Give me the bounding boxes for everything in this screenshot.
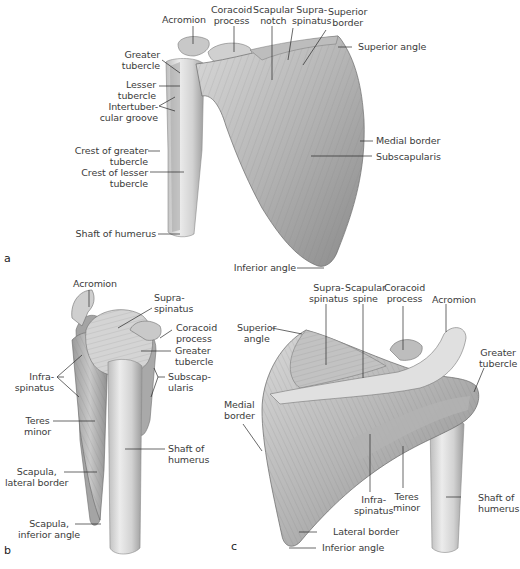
label-c-superior-angle: Superior angle xyxy=(237,322,276,344)
label-c-coracoid-process: Coracoid process xyxy=(384,282,425,304)
label-a-supraspinatus: Supra- spinatus xyxy=(292,4,331,26)
label-a-greater-tubercle: Greater tubercle xyxy=(106,49,160,71)
label-a-medial-border: Medial border xyxy=(376,135,440,146)
label-a-coracoid-process: Coracoid process xyxy=(211,4,252,26)
panel-a-illustration xyxy=(166,36,364,266)
label-c-shaft-of-humerus: Shaft of humerus xyxy=(478,492,519,514)
panel-letter-b: b xyxy=(4,544,11,557)
label-b-scapula-inferior-angle: Scapula, inferior angle xyxy=(18,518,80,540)
label-c-greater-tubercle: Greater tubercle xyxy=(479,347,517,369)
label-a-subscapularis: Subscapularis xyxy=(376,151,441,162)
label-c-acromion: Acromion xyxy=(432,294,476,305)
label-b-greater-tubercle: Greater tubercle xyxy=(175,345,213,367)
label-c-inferior-angle: Inferior angle xyxy=(322,542,384,553)
label-b-scapula-lateral-border: Scapula, lateral border xyxy=(5,466,68,488)
label-a-lesser-tubercle: Lesser tubercle xyxy=(104,79,156,101)
label-a-intertubercular-groove: Intertuber- cular groove xyxy=(80,101,158,123)
label-c-teres-minor: Teres minor xyxy=(393,491,420,513)
label-b-acromion: Acromion xyxy=(73,278,117,289)
label-b-coracoid-process: Coracoid process xyxy=(176,322,217,344)
label-b-teres-minor: Teres minor xyxy=(24,415,51,437)
label-a-shaft-of-humerus: Shaft of humerus xyxy=(60,228,156,239)
panel-c-illustration xyxy=(262,328,479,553)
label-c-supraspinatus: Supra- spinatus xyxy=(309,282,348,304)
panel-b-illustration xyxy=(72,290,161,554)
label-c-lateral-border: Lateral border xyxy=(333,526,399,537)
panel-letter-c: c xyxy=(231,540,237,553)
label-b-supraspinatus: Supra- spinatus xyxy=(154,292,193,314)
label-b-shaft-of-humerus: Shaft of humerus xyxy=(168,443,209,465)
label-c-infraspinatus: Infra- spinatus xyxy=(354,494,393,516)
panel-letter-a: a xyxy=(4,252,11,265)
label-a-superior-border: Superior border xyxy=(328,6,367,28)
label-a-crest-lesser-tubercle: Crest of lesser tubercle xyxy=(60,167,148,189)
anatomy-figure: Acromion Coracoid process Scapular notch… xyxy=(0,0,520,569)
label-a-acromion: Acromion xyxy=(162,14,206,25)
label-a-scapular-notch: Scapular notch xyxy=(253,4,294,26)
label-c-medial-border: Medial border xyxy=(224,399,255,421)
label-b-infraspinatus: Infra- spinatus xyxy=(8,371,54,393)
label-a-crest-greater-tubercle: Crest of greater tubercle xyxy=(60,145,148,167)
label-a-inferior-angle: Inferior angle xyxy=(220,262,296,273)
label-c-scapular-spine: Scapular spine xyxy=(345,282,386,304)
label-b-subscapularis: Subscap- ularis xyxy=(168,371,211,393)
label-a-superior-angle: Superior angle xyxy=(358,41,426,52)
